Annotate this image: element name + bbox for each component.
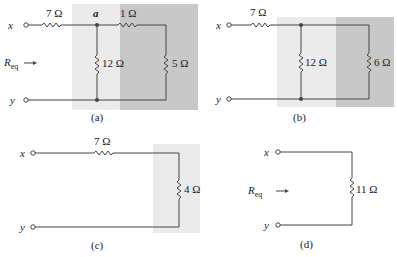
node-a-label: a <box>93 7 99 19</box>
panel-c: x y 7 Ω 4 Ω (c) <box>19 135 200 252</box>
node-a-dot <box>95 23 99 27</box>
caption-c: (c) <box>91 239 104 252</box>
panel-d: x y 11 Ω Req (d) <box>247 146 378 251</box>
terminal-x-label-b: x <box>215 19 221 31</box>
terminal-y-label-c: y <box>19 221 25 233</box>
terminal-y-d <box>276 223 280 227</box>
label-4-ohm-c: 4 Ω <box>184 183 200 195</box>
label-12-ohm-b: 12 Ω <box>305 56 327 68</box>
label-5-ohm-a: 5 Ω <box>172 57 188 69</box>
terminal-y-label-a: y <box>9 94 15 106</box>
label-7-ohm-c: 7 Ω <box>94 135 110 147</box>
circuit-diagram: x y 7 Ω a 1 Ω 12 Ω 5 Ω Req (a) x y 7 Ω 1… <box>0 0 397 257</box>
resistor-7-ohm-a <box>42 23 61 27</box>
req-label-d: Req <box>247 184 262 199</box>
node-bottom-dot-a <box>95 98 99 102</box>
caption-b: (b) <box>293 111 306 124</box>
label-1-ohm-a: 1 Ω <box>120 7 136 19</box>
terminal-x-label-a: x <box>7 19 13 31</box>
resistor-7-ohm-c <box>94 151 113 155</box>
terminal-x-a <box>24 23 28 27</box>
panel-a: x y 7 Ω a 1 Ω 12 Ω 5 Ω Req (a) <box>3 4 198 124</box>
resistor-7-ohm-b <box>251 23 270 27</box>
req-label-a: Req <box>3 56 18 71</box>
label-7-ohm-a: 7 Ω <box>46 7 62 19</box>
label-6-ohm-b: 6 Ω <box>374 56 390 68</box>
terminal-x-c <box>31 151 35 155</box>
caption-a: (a) <box>91 111 104 124</box>
terminal-x-d <box>276 150 280 154</box>
label-12-ohm-a: 12 Ω <box>102 57 124 69</box>
node-top-dot-b <box>299 23 303 27</box>
terminal-y-label-d: y <box>263 219 269 231</box>
terminal-x-label-d: x <box>263 146 269 158</box>
terminal-y-c <box>31 225 35 229</box>
terminal-x-b <box>227 23 231 27</box>
caption-d: (d) <box>300 238 313 251</box>
node-bottom-dot-b <box>299 97 303 101</box>
label-11-ohm-d: 11 Ω <box>356 183 378 195</box>
panel-b: x y 7 Ω 12 Ω 6 Ω (b) <box>215 6 394 124</box>
terminal-x-label-c: x <box>19 147 25 159</box>
label-7-ohm-b: 7 Ω <box>250 6 266 18</box>
terminal-y-label-b: y <box>215 93 221 105</box>
resistor-11-ohm-d <box>350 178 354 197</box>
terminal-y-a <box>24 98 28 102</box>
terminal-y-b <box>227 97 231 101</box>
